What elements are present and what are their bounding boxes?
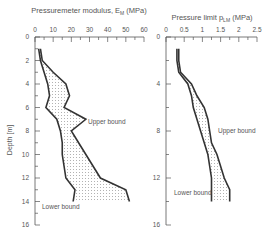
svg-text:0: 0 [33,26,37,33]
svg-text:12: 12 [153,174,161,181]
right-panel: Pressure limit pLM (MPa) 00.511.522.5 04… [153,13,262,228]
svg-text:60: 60 [140,26,148,33]
right-chart-title: Pressure limit pLM (MPa) [171,13,253,23]
svg-text:8: 8 [25,127,29,134]
svg-text:2: 2 [25,57,29,64]
left-x-tick-labels: 0102030405060 [33,26,148,33]
svg-text:16: 16 [153,221,161,228]
svg-text:10: 10 [50,26,58,33]
svg-text:0: 0 [164,26,168,33]
left-panel: Pressuremeter modulus, EM (MPa) 01020304… [6,6,148,228]
svg-text:40: 40 [104,26,112,33]
svg-text:0.5: 0.5 [180,26,189,33]
left-y-tick-labels: 0246810121416 [22,33,30,228]
svg-text:30: 30 [86,26,94,33]
svg-text:12: 12 [22,174,30,181]
svg-text:2.5: 2.5 [252,26,261,33]
right-lower-label: Lower bound [174,189,212,196]
chart-figure: Pressuremeter modulus, EM (MPa) 01020304… [0,0,274,239]
right-fill-between [177,49,230,202]
left-upper-label: Upper bound [88,118,126,126]
svg-text:20: 20 [68,26,76,33]
right-x-tick-labels: 00.511.522.5 [164,26,262,33]
svg-text:50: 50 [122,26,130,33]
left-lower-label: Lower bound [42,203,80,210]
svg-text:10: 10 [22,151,30,158]
svg-text:8: 8 [156,127,160,134]
svg-text:1.5: 1.5 [216,26,225,33]
svg-text:2: 2 [237,26,241,33]
right-y-tick-labels: 0481216 [153,33,161,228]
svg-text:16: 16 [22,221,30,228]
svg-text:0: 0 [156,33,160,40]
left-chart-title: Pressuremeter modulus, EM (MPa) [31,6,147,16]
right-upper-label: Upper bound [218,127,256,135]
depth-axis-label: Depth [m] [6,125,14,155]
svg-text:6: 6 [25,104,29,111]
svg-text:0: 0 [25,33,29,40]
svg-text:14: 14 [22,198,30,205]
svg-text:4: 4 [25,80,29,87]
svg-text:1: 1 [201,26,205,33]
svg-text:4: 4 [156,80,160,87]
